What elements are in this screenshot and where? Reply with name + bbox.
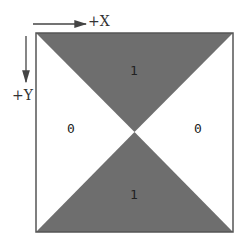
diagram-canvas	[0, 0, 250, 246]
bottom-triangle-region	[36, 132, 233, 232]
region-left-value: 0	[67, 122, 75, 135]
region-right-value: 0	[194, 122, 202, 135]
x-axis-label: +X	[88, 14, 110, 28]
y-axis-label: +Y	[12, 88, 33, 102]
region-bottom-value: 1	[130, 188, 138, 201]
region-top-value: 1	[130, 64, 138, 77]
top-triangle-region	[36, 33, 233, 132]
